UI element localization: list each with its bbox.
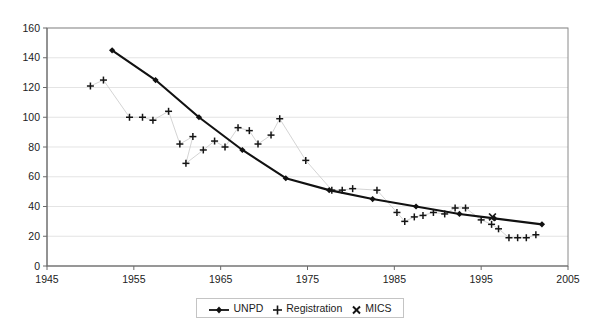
y-axis-ticks — [43, 28, 47, 266]
svg-text:1955: 1955 — [122, 273, 146, 285]
x-axis-tick-labels: 1945195519651975198519952005 — [35, 273, 580, 285]
svg-text:1965: 1965 — [209, 273, 233, 285]
svg-text:1985: 1985 — [383, 273, 407, 285]
legend-item-unpd: UNPD — [208, 302, 263, 314]
chart-container: 020406080100120140160 194519551965197519… — [0, 0, 593, 328]
svg-text:160: 160 — [22, 22, 40, 34]
registration-series-line — [90, 80, 535, 238]
chart-legend: UNPD Registration MICS — [196, 298, 404, 318]
svg-text:120: 120 — [22, 81, 40, 93]
legend-item-mics: MICS — [351, 302, 391, 314]
svg-text:1975: 1975 — [296, 273, 320, 285]
svg-text:20: 20 — [28, 230, 40, 242]
line-chart: 020406080100120140160 194519551965197519… — [0, 0, 593, 328]
svg-text:0: 0 — [34, 260, 40, 272]
unpd-series-line — [112, 50, 542, 224]
legend-plus-icon — [272, 302, 283, 314]
legend-label-registration: Registration — [286, 303, 342, 314]
svg-text:2005: 2005 — [556, 273, 580, 285]
legend-item-registration: Registration — [272, 302, 342, 314]
legend-label-mics: MICS — [365, 303, 391, 314]
svg-text:80: 80 — [28, 141, 40, 153]
x-axis-ticks — [47, 266, 568, 270]
legend-line-diamond-icon — [208, 302, 230, 314]
svg-text:1945: 1945 — [35, 273, 59, 285]
unpd-series-markers — [109, 47, 545, 227]
svg-text:60: 60 — [28, 170, 40, 182]
svg-text:40: 40 — [28, 200, 40, 212]
svg-text:100: 100 — [22, 111, 40, 123]
y-axis-tick-labels: 020406080100120140160 — [22, 22, 40, 272]
legend-label-unpd: UNPD — [233, 303, 263, 314]
svg-text:140: 140 — [22, 51, 40, 63]
svg-text:1995: 1995 — [469, 273, 493, 285]
legend-cross-icon — [351, 302, 362, 314]
